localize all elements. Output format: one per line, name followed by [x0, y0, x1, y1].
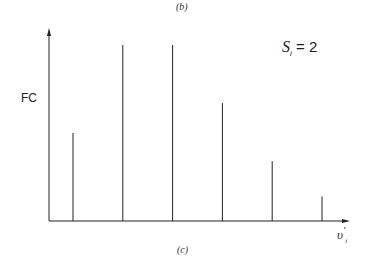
xlabel-prime: ' — [343, 224, 345, 236]
annotation-si: Si = 2 — [282, 38, 317, 58]
y-axis-label: FC — [21, 91, 37, 105]
caption-bottom: (c) — [177, 244, 188, 255]
x-axis-arrow-icon — [342, 219, 350, 223]
stick-bars — [73, 45, 322, 221]
anno-value: = 2 — [292, 38, 317, 55]
x-axis-label: υ'i — [337, 224, 347, 245]
y-axis-arrow-icon — [47, 28, 51, 36]
anno-symbol: S — [282, 38, 290, 55]
xlabel-subscript: i — [345, 237, 347, 245]
